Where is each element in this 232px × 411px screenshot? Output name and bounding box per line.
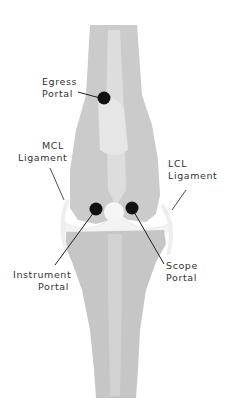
intercondylar-notch — [104, 202, 124, 222]
instrument-label-2: Portal — [38, 281, 69, 292]
mcl-leader-line — [50, 168, 64, 200]
egress-label-2: Portal — [42, 88, 73, 99]
instrument-portal-marker — [90, 203, 103, 216]
lcl-leader-line — [172, 190, 186, 210]
scope-portal-marker — [126, 202, 139, 215]
knee-portal-diagram: Egress Portal MCL Ligament LCL Ligament … — [0, 0, 232, 411]
egress-portal-marker — [98, 92, 111, 105]
mcl-label: MCL — [42, 140, 64, 151]
scope-label: Scope — [166, 260, 198, 271]
egress-label: Egress — [42, 76, 77, 87]
lcl-label: LCL — [168, 158, 187, 169]
scope-label-2: Portal — [166, 272, 197, 283]
mcl-label-2: Ligament — [18, 152, 67, 163]
lcl-label-2: Ligament — [168, 170, 217, 181]
tibia-highlight — [108, 234, 122, 396]
instrument-label: Instrument — [13, 269, 71, 280]
